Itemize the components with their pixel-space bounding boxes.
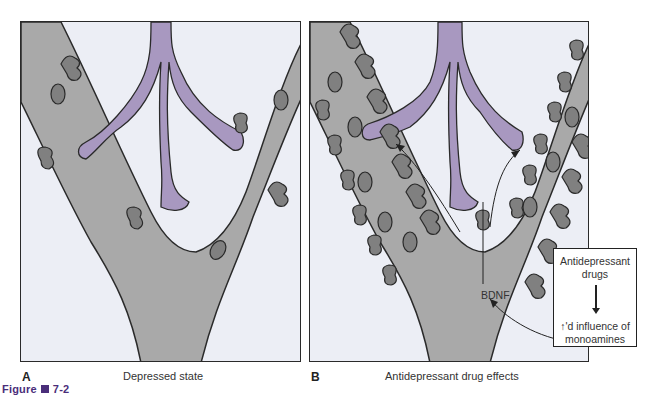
panel-b-antidepressant-effects — [309, 21, 589, 362]
box-top-line1: Antidepressant — [560, 255, 630, 267]
dendrite-illustration-b — [310, 22, 589, 362]
panel-a-letter: A — [22, 370, 31, 384]
square-bullet-icon — [41, 385, 49, 393]
mechanism-box: Antidepressant drugs ↑'d influence of mo… — [553, 248, 637, 347]
down-arrow-icon — [595, 285, 597, 309]
monoamine-influence-text: ↑'d influence of monoamines — [554, 320, 636, 346]
panel-a-depressed-state — [20, 21, 301, 362]
panel-b-letter: B — [311, 370, 320, 384]
figure-label: Figure7-2 — [2, 383, 69, 395]
bdnf-label: BDNF — [481, 289, 510, 301]
panel-b-caption: Antidepressant drug effects — [385, 370, 519, 382]
panel-a-caption: Depressed state — [123, 370, 203, 382]
figure-word: Figure — [2, 383, 37, 395]
dendrite-illustration-a — [21, 22, 301, 362]
figure-number: 7-2 — [53, 383, 70, 395]
box-bottom-line1: ↑'d influence of — [560, 320, 630, 332]
antidepressant-drugs-text: Antidepressant drugs — [554, 255, 636, 281]
box-bottom-line2: monoamines — [565, 333, 625, 345]
box-top-line2: drugs — [582, 268, 608, 280]
